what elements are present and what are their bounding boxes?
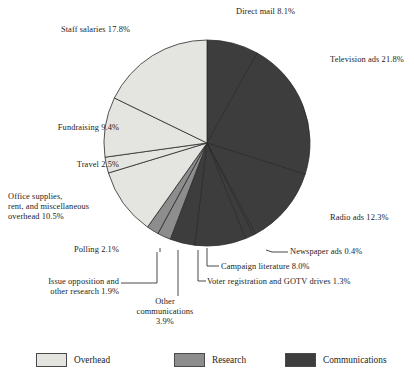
slice-label-office-supplies: Office supplies, rent, and miscellaneous…	[8, 192, 126, 223]
slice-label-fundraising: Fundraising 9.4%	[6, 123, 119, 133]
leader-line-issue-opposition	[121, 252, 157, 283]
slice-label-newspaper-ads: Newspaper ads 0.4%	[290, 247, 362, 257]
slice-label-radio-ads: Radio ads 12.3%	[330, 213, 389, 223]
slice-label-issue-opposition: Issue opposition and other research 1.9%	[14, 277, 119, 297]
legend-label-overhead: Overhead	[74, 355, 110, 365]
slice-label-polling: Polling 2.1%	[31, 245, 119, 255]
legend-item-research: Research	[174, 352, 246, 368]
leader-line-campaign-literature	[207, 248, 219, 266]
pie-chart-figure: Direct mail 8.1% Television ads 21.8% Ra…	[0, 0, 414, 381]
slice-label-other-communications: Other communications 3.9%	[128, 297, 202, 328]
legend-swatch-communications	[285, 353, 316, 367]
slice-label-television-ads: Television ads 21.8%	[330, 55, 404, 65]
pie-slice-group	[104, 40, 310, 246]
leader-line-newspaper-ads	[266, 250, 288, 252]
legend-label-communications: Communications	[323, 355, 387, 365]
slice-label-direct-mail: Direct mail 8.1%	[236, 7, 295, 17]
chart-legend: Overhead Research Communications	[0, 350, 414, 376]
slice-label-voter-registration: Voter registration and GOTV drives 1.3%	[207, 277, 351, 287]
legend-item-overhead: Overhead	[36, 352, 110, 368]
legend-label-research: Research	[212, 355, 246, 365]
legend-swatch-research	[174, 353, 205, 367]
leader-line-voter-registration	[198, 250, 206, 281]
slice-label-campaign-literature: Campaign literature 8.0%	[221, 262, 310, 272]
slice-label-staff-salaries: Staff salaries 17.8%	[40, 25, 130, 35]
slice-label-travel: Travel 2.5%	[34, 160, 119, 170]
legend-swatch-overhead	[36, 353, 67, 367]
legend-item-communications: Communications	[285, 352, 387, 368]
